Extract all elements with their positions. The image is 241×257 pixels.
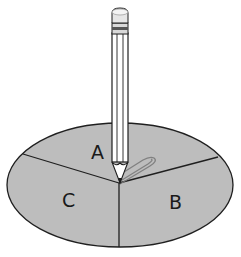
spinner-diagram: A C B — [0, 0, 241, 257]
section-label-c: C — [62, 189, 75, 211]
section-label-b: B — [169, 191, 182, 213]
pencil-icon — [112, 8, 128, 184]
section-label-a: A — [91, 141, 104, 163]
spinner-figure: A C B — [0, 0, 241, 257]
